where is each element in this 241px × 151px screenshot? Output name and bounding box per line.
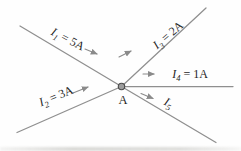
- current-label-i4: I4= 1A: [172, 68, 208, 80]
- scan-shadow-artifact: [0, 147, 241, 151]
- flow-arrow-i2: [73, 87, 88, 93]
- flow-arrow-i1: [85, 49, 97, 54]
- current-junction-diagram: I1= 5A I2= 3A I3= 2A I4= 1A I5 A: [0, 0, 241, 151]
- current-value: = 1A: [183, 67, 207, 81]
- flow-arrow-i3: [119, 51, 131, 57]
- flow-arrow-i5: [141, 94, 153, 99]
- junction-node-label: A: [118, 94, 127, 107]
- junction-node-dot: [118, 83, 124, 89]
- current-subscript: 4: [176, 73, 180, 83]
